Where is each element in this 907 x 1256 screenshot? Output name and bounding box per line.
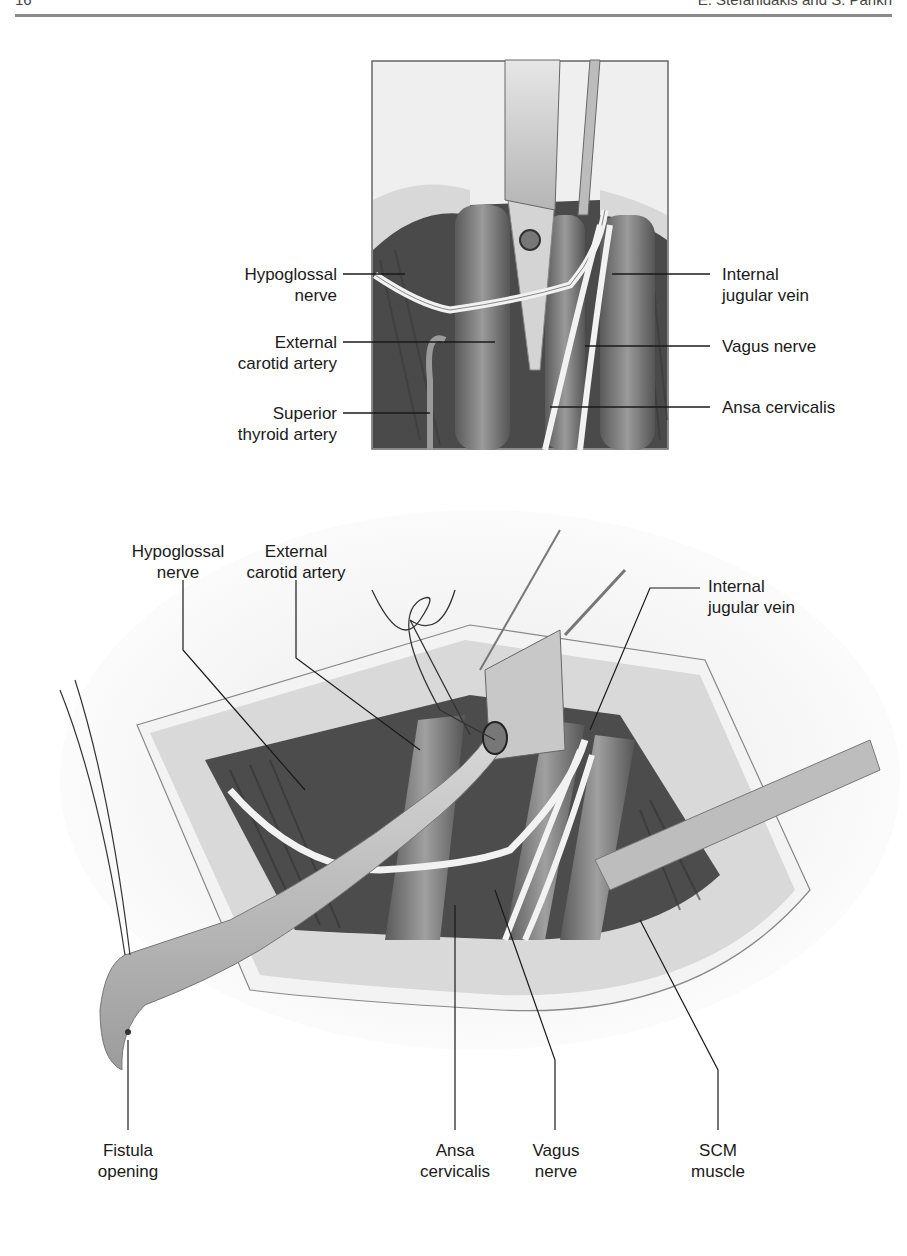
label-vagus-nerve: Vagus nerve	[722, 336, 816, 357]
label-external-carotid-artery-bottom: External carotid artery	[246, 541, 345, 583]
label-line: Vagus nerve	[722, 336, 816, 357]
label-line: External	[238, 332, 337, 353]
label-line: nerve	[132, 562, 225, 583]
label-line: Hypoglossal	[244, 264, 337, 285]
label-line: jugular vein	[708, 597, 795, 618]
label-line: jugular vein	[722, 285, 809, 306]
label-line: Ansa cervicalis	[722, 397, 835, 418]
label-line: SCM	[691, 1140, 745, 1161]
label-line: muscle	[691, 1161, 745, 1182]
label-hypoglossal-nerve: Hypoglossal nerve	[244, 264, 337, 306]
figure-bottom: Hypoglossal nerve External carotid arter…	[0, 470, 907, 1256]
label-line: nerve	[533, 1161, 580, 1182]
label-line: Hypoglossal	[132, 541, 225, 562]
label-line: cervicalis	[420, 1161, 490, 1182]
label-superior-thyroid-artery: Superior thyroid artery	[238, 403, 337, 445]
label-internal-jugular-vein: Internal jugular vein	[722, 264, 809, 306]
label-line: Fistula	[98, 1140, 159, 1161]
label-line: Vagus	[533, 1140, 580, 1161]
label-line: opening	[98, 1161, 159, 1182]
label-line: Internal	[708, 576, 795, 597]
label-hypoglossal-nerve-bottom: Hypoglossal nerve	[132, 541, 225, 583]
label-external-carotid-artery: External carotid artery	[238, 332, 337, 374]
figure-top: Hypoglossal nerve External carotid arter…	[0, 0, 907, 470]
label-ansa-cervicalis: Ansa cervicalis	[722, 397, 835, 418]
label-line: Internal	[722, 264, 809, 285]
label-ansa-cervicalis-bottom: Ansa cervicalis	[420, 1140, 490, 1182]
label-line: nerve	[244, 285, 337, 306]
label-line: Superior	[238, 403, 337, 424]
label-scm-muscle: SCM muscle	[691, 1140, 745, 1182]
label-internal-jugular-vein-bottom: Internal jugular vein	[708, 576, 795, 618]
label-line: carotid artery	[238, 353, 337, 374]
label-line: External	[246, 541, 345, 562]
label-fistula-opening: Fistula opening	[98, 1140, 159, 1182]
label-line: Ansa	[420, 1140, 490, 1161]
label-vagus-nerve-bottom: Vagus nerve	[533, 1140, 580, 1182]
label-line: carotid artery	[246, 562, 345, 583]
label-line: thyroid artery	[238, 424, 337, 445]
